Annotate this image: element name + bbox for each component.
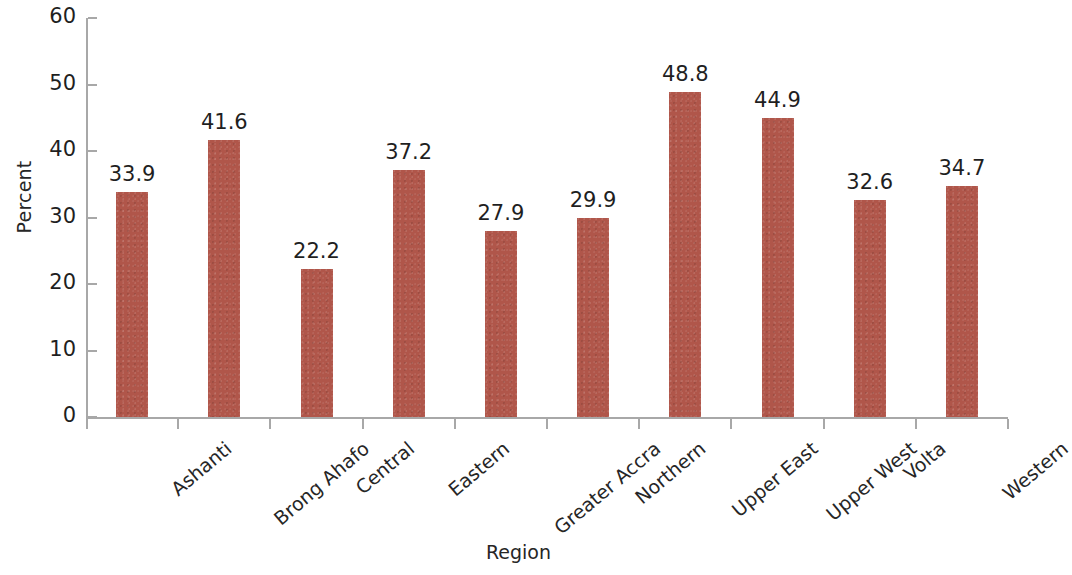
bar bbox=[393, 170, 425, 417]
x-axis-tick bbox=[269, 419, 271, 429]
y-axis-tick bbox=[88, 84, 97, 86]
y-axis-tick bbox=[88, 217, 97, 219]
x-axis-category-label: Western bbox=[998, 437, 1072, 504]
y-axis-tick bbox=[88, 283, 97, 285]
x-axis-category-label: Ashanti bbox=[167, 437, 236, 500]
x-axis-tick bbox=[1007, 419, 1009, 429]
y-axis-tick-label: 60 bbox=[0, 4, 76, 28]
bar bbox=[301, 269, 333, 417]
bar-value-label: 27.9 bbox=[456, 201, 546, 225]
bar-value-label: 48.8 bbox=[640, 62, 730, 86]
bar bbox=[854, 200, 886, 417]
y-axis-tick bbox=[88, 150, 97, 152]
bar bbox=[946, 186, 978, 417]
x-axis-tick bbox=[823, 419, 825, 429]
x-axis-category-label: Eastern bbox=[444, 437, 513, 500]
y-axis-tick-label: 50 bbox=[0, 71, 76, 95]
x-axis-category-label: Upper West bbox=[821, 437, 920, 525]
bar-value-label: 32.6 bbox=[825, 170, 915, 194]
y-axis-tick-label: 40 bbox=[0, 137, 76, 161]
x-axis-tick bbox=[638, 419, 640, 429]
y-axis-tick bbox=[88, 17, 97, 19]
bar-value-label: 37.2 bbox=[364, 140, 454, 164]
bar bbox=[577, 218, 609, 417]
x-axis-tick bbox=[546, 419, 548, 429]
bar bbox=[485, 231, 517, 417]
x-axis-tick bbox=[177, 419, 179, 429]
y-axis-tick-label: 10 bbox=[0, 337, 76, 361]
x-axis-tick bbox=[86, 419, 88, 429]
y-axis-tick-label: 0 bbox=[0, 403, 76, 427]
x-axis-category-label: Upper East bbox=[728, 437, 822, 521]
x-axis-tick bbox=[454, 419, 456, 429]
bar-value-label: 34.7 bbox=[917, 156, 1007, 180]
bar-value-label: 29.9 bbox=[548, 188, 638, 212]
bar bbox=[669, 92, 701, 417]
bar-value-label: 33.9 bbox=[87, 162, 177, 186]
x-axis-tick bbox=[915, 419, 917, 429]
bar-value-label: 22.2 bbox=[272, 239, 362, 263]
bar bbox=[116, 192, 148, 417]
x-axis-title: Region bbox=[0, 541, 1037, 563]
y-axis-tick bbox=[88, 350, 97, 352]
y-axis-tick-label: 30 bbox=[0, 204, 76, 228]
bar bbox=[208, 140, 240, 417]
y-axis-tick-label: 20 bbox=[0, 270, 76, 294]
x-axis-tick bbox=[730, 419, 732, 429]
bar-value-label: 44.9 bbox=[733, 88, 823, 112]
bar-value-label: 41.6 bbox=[179, 110, 269, 134]
x-axis-tick bbox=[362, 419, 364, 429]
bar bbox=[762, 118, 794, 417]
